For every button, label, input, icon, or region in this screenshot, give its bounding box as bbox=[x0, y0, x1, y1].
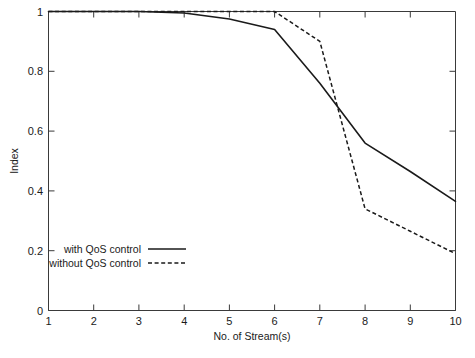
y-axis-tick-labels: 0 0.2 0.4 0.6 0.8 1 bbox=[28, 6, 43, 317]
x-tick-label-5: 5 bbox=[226, 315, 232, 327]
figure-container: 0 0.2 0.4 0.6 0.8 1 bbox=[0, 0, 475, 358]
x-tick-label-7: 7 bbox=[317, 315, 323, 327]
x-tick-label-3: 3 bbox=[136, 315, 142, 327]
x-tick-label-1: 1 bbox=[45, 315, 51, 327]
line-chart: 0 0.2 0.4 0.6 0.8 1 bbox=[0, 0, 475, 358]
y-tick-label-1: 1 bbox=[37, 6, 43, 18]
x-tick-label-8: 8 bbox=[362, 315, 368, 327]
x-tick-label-10: 10 bbox=[449, 315, 461, 327]
y-axis-title: Index bbox=[8, 147, 20, 173]
x-tick-label-6: 6 bbox=[272, 315, 278, 327]
x-tick-label-4: 4 bbox=[181, 315, 187, 327]
y-tick-label-0.2: 0.2 bbox=[28, 245, 43, 257]
y-tick-label-0: 0 bbox=[37, 305, 43, 317]
y-tick-label-0.8: 0.8 bbox=[28, 65, 43, 77]
legend: with QoS control without QoS control bbox=[48, 243, 186, 269]
legend-label-without-qos: without QoS control bbox=[48, 257, 141, 269]
series-line-with-qos-control bbox=[49, 12, 456, 202]
y-tick-label-0.4: 0.4 bbox=[28, 185, 43, 197]
series-line-without-qos-control bbox=[49, 12, 456, 254]
x-tick-label-2: 2 bbox=[91, 315, 97, 327]
x-axis-title: No. of Stream(s) bbox=[213, 330, 290, 342]
legend-label-with-qos: with QoS control bbox=[63, 243, 141, 255]
x-axis-tick-labels: 1 2 3 4 5 6 7 8 9 10 bbox=[45, 315, 461, 327]
x-tick-label-9: 9 bbox=[407, 315, 413, 327]
y-tick-label-0.6: 0.6 bbox=[28, 125, 43, 137]
